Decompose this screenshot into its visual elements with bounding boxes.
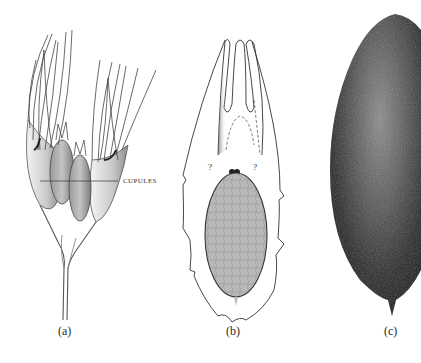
panel-c: (c) [300, 0, 421, 363]
panel-c-caption: (c) [384, 324, 397, 339]
panel-a-caption: (a) [58, 324, 71, 339]
cupule-section-diagram: ? ? [180, 0, 300, 363]
seed-photograph [300, 0, 421, 363]
panel-b-caption: (b) [226, 324, 240, 339]
unknown-mark-right: ? [253, 162, 257, 172]
cupules-label: CUPULES [123, 177, 157, 185]
unknown-mark-left: ? [208, 162, 212, 172]
panel-a: CUPULES (a) [0, 0, 180, 363]
panel-b: ? ? (b) [180, 0, 300, 363]
ovule [205, 173, 267, 297]
